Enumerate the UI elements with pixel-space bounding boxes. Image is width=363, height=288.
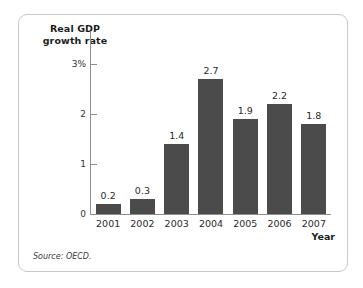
bar-value-label: 1.9 (238, 105, 253, 116)
bar-group[interactable]: 2.72004 (194, 15, 228, 214)
bar-group[interactable]: 0.32002 (125, 15, 159, 214)
bar-group[interactable]: 2.22006 (262, 15, 296, 214)
x-axis-tick-label: 2007 (302, 218, 326, 229)
bar[interactable] (130, 199, 155, 214)
bar-value-label: 1.4 (169, 130, 184, 141)
x-axis-tick-label: 2004 (199, 218, 223, 229)
bar-value-label: 1.8 (306, 110, 321, 121)
bar-group[interactable]: 1.92005 (228, 15, 262, 214)
bar-group[interactable]: 1.42003 (160, 15, 194, 214)
bar[interactable] (301, 124, 326, 214)
x-axis-tick-label: 2002 (130, 218, 154, 229)
x-axis-tick-label: 2001 (96, 218, 120, 229)
bar-series: 0.220010.320021.420032.720041.920052.220… (91, 15, 331, 214)
source-note: Source: OECD. (33, 252, 92, 261)
bar-value-label: 2.7 (203, 65, 218, 76)
figure-frame: Real GDP growth rate 0123% 0.220010.3200… (18, 14, 348, 272)
plot-area: 0123% 0.220010.320021.420032.720041.9200… (19, 15, 349, 273)
bar-value-label: 0.2 (101, 190, 116, 201)
bar[interactable] (96, 204, 121, 214)
bar-group[interactable]: 1.82007 (297, 15, 331, 214)
bar[interactable] (233, 119, 258, 214)
bar-value-label: 0.3 (135, 185, 150, 196)
bar[interactable] (267, 104, 292, 214)
y-axis-tick-label: 3% (72, 59, 86, 69)
y-axis-tick-label: 1 (80, 159, 86, 169)
x-axis-line (90, 214, 331, 215)
y-axis-tick-label: 2 (80, 109, 86, 119)
x-axis-tick-label: 2006 (267, 218, 291, 229)
y-axis-tick: 0 (90, 214, 97, 215)
y-axis-tick-label: 0 (80, 209, 86, 219)
x-axis-tick-label: 2005 (233, 218, 257, 229)
bar[interactable] (164, 144, 189, 214)
bar-group[interactable]: 0.22001 (91, 15, 125, 214)
x-axis-tick-label: 2003 (165, 218, 189, 229)
bar-value-label: 2.2 (272, 90, 287, 101)
bar[interactable] (198, 79, 223, 214)
x-axis-title: Year (311, 231, 335, 242)
